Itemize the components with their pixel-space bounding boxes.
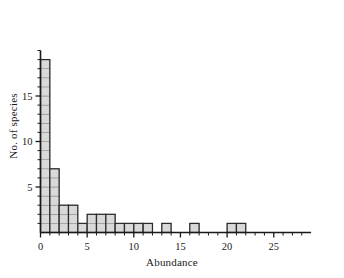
plot-area: 051015202551015 xyxy=(0,0,344,278)
bar-cell xyxy=(59,223,68,232)
x-tick-label: 20 xyxy=(222,241,233,252)
bar-cell xyxy=(41,178,50,187)
bar-cell xyxy=(50,205,59,214)
bar-cell xyxy=(143,223,152,232)
bar-cell xyxy=(87,223,96,232)
bar-cell xyxy=(41,114,50,123)
bar-cell xyxy=(41,160,50,169)
bar-cell xyxy=(106,214,115,223)
histogram-bar xyxy=(124,223,133,232)
bar-cell xyxy=(124,223,133,232)
x-tick-label: 0 xyxy=(38,241,43,252)
bar-cell xyxy=(68,223,77,232)
bar-cell xyxy=(87,214,96,223)
histogram-bar xyxy=(41,60,50,233)
bar-cell xyxy=(41,142,50,151)
bar-cell xyxy=(50,196,59,205)
histogram-bar xyxy=(68,205,77,232)
histogram-bar xyxy=(106,214,115,232)
histogram-bar xyxy=(162,223,171,232)
bar-cell xyxy=(50,214,59,223)
x-axis-title: Abundance xyxy=(0,256,344,268)
histogram-bar xyxy=(236,223,245,232)
histogram-bar xyxy=(143,223,152,232)
bar-cell xyxy=(41,123,50,132)
x-tick-label: 25 xyxy=(269,241,280,252)
histogram-bar xyxy=(59,205,68,232)
histogram-bar xyxy=(227,223,236,232)
bar-cell xyxy=(68,205,77,214)
bar-cell xyxy=(41,69,50,78)
bar-cell xyxy=(41,196,50,205)
bar-cell xyxy=(190,223,199,232)
bar-cell xyxy=(106,223,115,232)
bar-cell xyxy=(96,223,105,232)
bar-cell xyxy=(41,96,50,105)
histogram-bar xyxy=(96,214,105,232)
histogram-bar xyxy=(190,223,199,232)
bar-cell xyxy=(227,223,236,232)
bar-cell xyxy=(41,205,50,214)
bar-cell xyxy=(41,187,50,196)
bar-cell xyxy=(50,178,59,187)
bar-cell xyxy=(68,214,77,223)
histogram-bar xyxy=(87,214,96,232)
histogram-bar xyxy=(134,223,143,232)
bar-cell xyxy=(162,223,171,232)
histogram-bar xyxy=(50,169,59,233)
bar-cell xyxy=(41,223,50,232)
bar-cell xyxy=(41,151,50,160)
bar-cell xyxy=(41,132,50,141)
bar-cell xyxy=(41,87,50,96)
bar-cell xyxy=(41,169,50,178)
bar-cell xyxy=(59,214,68,223)
x-tick-label: 15 xyxy=(175,241,186,252)
bar-cell xyxy=(41,60,50,69)
bar-cell xyxy=(50,169,59,178)
bars-group xyxy=(41,60,246,233)
bar-cell xyxy=(134,223,143,232)
y-tick-label: 15 xyxy=(22,91,33,102)
histogram-bar xyxy=(115,223,124,232)
bar-cell xyxy=(50,223,59,232)
histogram-figure: 051015202551015 No. of species Abundance xyxy=(0,0,344,278)
bar-cell xyxy=(41,78,50,87)
histogram-bar xyxy=(78,223,87,232)
bar-cell xyxy=(41,105,50,114)
y-axis-title: No. of species xyxy=(7,66,19,186)
bar-cell xyxy=(96,214,105,223)
x-tick-label: 5 xyxy=(85,241,90,252)
y-tick-label: 5 xyxy=(27,182,32,193)
bar-cell xyxy=(236,223,245,232)
bar-cell xyxy=(41,214,50,223)
y-tick-label: 10 xyxy=(22,136,33,147)
bar-cell xyxy=(50,187,59,196)
bar-cell xyxy=(78,223,87,232)
bar-cell xyxy=(59,205,68,214)
bar-cell xyxy=(115,223,124,232)
x-tick-label: 10 xyxy=(129,241,140,252)
